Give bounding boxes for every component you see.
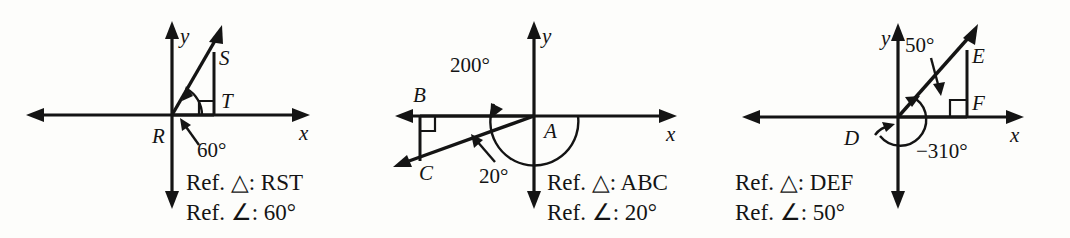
vertex-label-d: D	[843, 126, 859, 150]
x-axis-label: x	[665, 122, 676, 146]
caption-reference-triangle: Ref. △: RST	[186, 170, 303, 195]
right-angle-marker-b	[420, 116, 435, 131]
caption-reference-angle: Ref. ∠: 20°	[547, 200, 657, 225]
x-axis-right-arrowhead	[659, 109, 677, 123]
x-axis-label: x	[298, 121, 309, 145]
x-axis-left-arrowhead	[26, 108, 44, 122]
x-axis-right-arrowhead	[1006, 110, 1024, 124]
caption-reference-triangle: Ref. △: ABC	[547, 170, 668, 195]
rotation-arc-arrowhead-lower	[875, 122, 895, 135]
y-axis-down-arrowhead	[891, 191, 905, 209]
caption-reference-angle: Ref. ∠: 50°	[735, 200, 845, 225]
angle-label-pointer	[471, 134, 495, 162]
x-axis-left-arrowhead	[395, 109, 413, 123]
panel-def: x y 50° −310° D E F Ref. △: DEF	[714, 0, 1070, 238]
y-axis-label: y	[178, 24, 190, 48]
terminal-ray-arrowhead	[209, 25, 223, 44]
vertex-label-b: B	[413, 83, 426, 107]
x-axis-right-arrowhead	[292, 108, 310, 122]
vertex-label-s: S	[219, 46, 230, 70]
angle-measure-label: 50°	[905, 33, 934, 57]
vertex-label-e: E	[971, 44, 985, 68]
caption-reference-triangle: Ref. △: DEF	[735, 170, 853, 195]
angle-measure-label: 20°	[479, 164, 508, 188]
rotation-measure-label: 200°	[450, 53, 490, 77]
panel-abc: x y 200° 20° A B C Ref. △: ABC Ref. ∠: 2…	[357, 0, 714, 238]
vertex-label-a: A	[542, 119, 557, 143]
y-axis-up-arrowhead	[165, 21, 179, 39]
right-angle-marker-f	[950, 100, 967, 117]
y-axis-up-arrowhead	[891, 23, 905, 41]
vertex-label-t: T	[221, 89, 234, 113]
rotation-measure-label: −310°	[916, 139, 968, 163]
reference-triangles-figure: x y R S T 60° Ref. △: RST Ref. ∠: 60°	[0, 0, 1070, 238]
caption-reference-angle: Ref. ∠: 60°	[186, 200, 296, 225]
y-axis-label: y	[879, 26, 891, 50]
x-axis-label: x	[1009, 123, 1020, 147]
y-axis-down-arrowhead	[165, 191, 179, 209]
x-axis-left-arrowhead	[742, 110, 760, 124]
y-axis-up-arrowhead	[527, 21, 541, 39]
vertex-label-r: R	[151, 124, 165, 148]
vertex-label-c: C	[419, 161, 434, 185]
x-axis	[26, 108, 310, 122]
y-axis-label: y	[540, 24, 552, 48]
vertex-label-f: F	[971, 91, 985, 115]
panel-rst: x y R S T 60° Ref. △: RST Ref. ∠: 60°	[0, 0, 357, 238]
angle-measure-label: 60°	[197, 138, 226, 162]
y-axis-down-arrowhead	[527, 191, 541, 209]
terminal-ray-arrowhead	[393, 155, 412, 167]
